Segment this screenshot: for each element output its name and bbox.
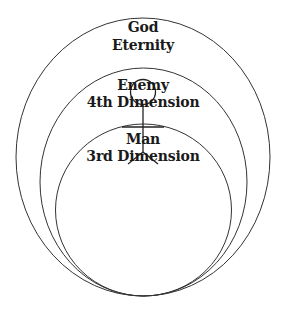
label-3rd-dimension: 3rd Dimension [0, 148, 286, 165]
label-man: Man [0, 131, 286, 148]
label-god: God [0, 19, 286, 36]
nested-dimensions-diagram: God Eternity Enemy 4th Dimension Man 3rd… [0, 0, 286, 312]
label-enemy: Enemy [0, 77, 286, 94]
label-4th-dimension: 4th Dimension [0, 94, 286, 111]
label-eternity: Eternity [0, 37, 286, 54]
